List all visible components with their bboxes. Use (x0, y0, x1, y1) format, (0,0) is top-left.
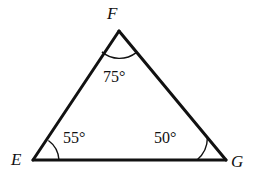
vertex-label-e: E (11, 151, 21, 168)
angle-arc-E (48, 141, 59, 161)
triangle-edges (33, 31, 226, 160)
vertex-label-f: F (107, 5, 117, 22)
angle-arc-G (197, 138, 207, 160)
vertex-label-g: G (231, 153, 243, 170)
geometry-figure: E F G 55° 75° 50° (0, 0, 256, 185)
angle-arc-F (102, 52, 136, 59)
angle-measure-f: 75° (103, 69, 125, 85)
triangle-diagram-canvas (0, 0, 256, 185)
angle-measure-g: 50° (154, 130, 176, 146)
angle-measure-e: 55° (63, 130, 85, 146)
